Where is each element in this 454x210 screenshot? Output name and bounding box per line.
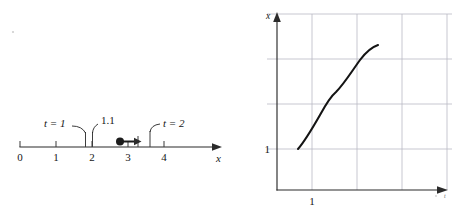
number-line-axis-label: x: [215, 152, 221, 164]
xt-graph-panel: x t 1 1: [265, 11, 453, 207]
number-line-panel: x 0 1 2 3 4 t = 1 1.1: [17, 114, 222, 164]
xt-graph-y-axis-arrowhead: [273, 12, 281, 22]
leader-line-1p1: [93, 124, 99, 133]
xt-graph-y-axis-label: x: [265, 11, 271, 21]
xt-graph-y-tick-label-1: 1: [265, 143, 271, 155]
number-line-tick-label-3: 3: [125, 151, 131, 163]
figure-svg: x 0 1 2 3 4 t = 1 1.1: [0, 0, 454, 210]
number-line-arrowhead: [212, 143, 222, 151]
leader-line-t2: [150, 124, 160, 132]
callout-label-t2: t = 2: [163, 117, 185, 129]
figure-root: x 0 1 2 3 4 t = 1 1.1: [0, 0, 454, 210]
callout-label-1p1: 1.1: [101, 114, 115, 126]
scan-speck: [435, 195, 437, 197]
callout-label-t1: t = 1: [44, 117, 65, 129]
xt-graph-x-axis-arrowhead: [437, 186, 448, 194]
xt-graph-x-axis-label: t: [444, 193, 446, 199]
xt-graph-x-tick-label-1: 1: [309, 195, 315, 207]
number-line-tick-label-1: 1: [53, 151, 59, 163]
xt-graph-curve: [298, 45, 378, 149]
scan-speck: [12, 31, 14, 33]
particle-dot: [116, 138, 124, 146]
number-line-tick-label-0: 0: [17, 151, 23, 163]
number-line-tick-label-2: 2: [89, 151, 95, 163]
leader-line-t1: [72, 126, 86, 133]
number-line-tick-label-4: 4: [161, 151, 167, 163]
